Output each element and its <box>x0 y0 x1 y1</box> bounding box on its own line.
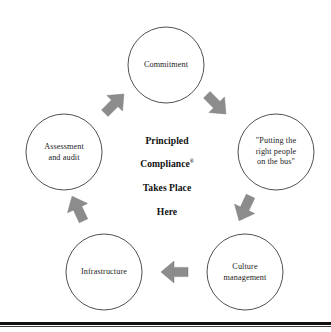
bottom-divider-rule-secondary <box>0 326 331 327</box>
node-circle-commitment <box>128 27 204 103</box>
center-caption-line-4: Here <box>157 205 177 216</box>
principled-compliance-cycle-diagram: Commitment "Putting the right people on … <box>0 0 331 332</box>
center-caption: Principled Compliance® Takes Place Here <box>140 123 193 217</box>
arrow-infrastructure-to-assessment-icon <box>62 192 93 226</box>
center-caption-line-3: Takes Place <box>143 182 191 193</box>
node-circle-culture-management <box>207 234 283 310</box>
node-circle-assessment-and-audit <box>26 114 102 190</box>
center-caption-trademark-mark: ® <box>190 158 194 164</box>
bottom-divider-rule <box>0 322 331 325</box>
node-circle-infrastructure <box>66 234 142 310</box>
node-circle-right-people <box>238 114 314 190</box>
center-caption-line-2: Compliance <box>140 158 190 169</box>
arrow-culture-to-infrastructure-icon <box>161 261 188 283</box>
arrow-assessment-to-commitment-icon <box>97 86 132 121</box>
arrow-commitment-to-people-icon <box>199 87 234 122</box>
center-caption-line-1: Principled <box>145 135 188 146</box>
arrow-people-to-culture-icon <box>229 192 260 226</box>
